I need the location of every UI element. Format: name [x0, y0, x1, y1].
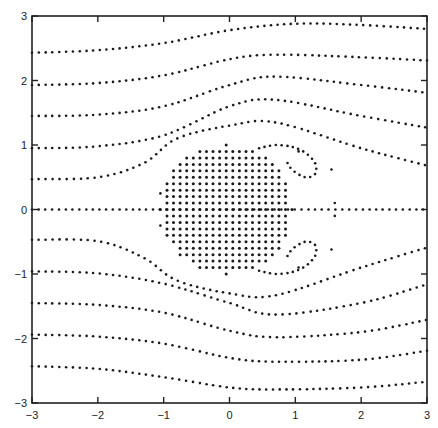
plot-frame: [32, 16, 427, 403]
streamline-chart: −3−2−10123 −3−2−10123: [0, 0, 438, 428]
y-tick-label: −1: [14, 268, 27, 280]
y-tick-label: 3: [21, 10, 27, 22]
streamline: [31, 75, 424, 117]
streamlines: [31, 22, 429, 391]
x-tick-label: 2: [358, 409, 364, 421]
upper-vortex: [258, 144, 333, 179]
streamline: [31, 22, 426, 54]
axes-frame: [32, 16, 427, 403]
x-tick-label: 3: [424, 409, 430, 421]
y-tick-label: −3: [14, 397, 27, 409]
x-tick-label: −3: [26, 409, 39, 421]
streamline: [31, 98, 427, 150]
lower-vortex: [258, 241, 333, 276]
y-tick-label: −2: [14, 333, 27, 345]
streamline: [31, 333, 429, 363]
streamline: [31, 238, 427, 298]
chart-canvas: −3−2−10123 −3−2−10123: [0, 0, 438, 428]
streamline: [31, 270, 425, 316]
streamline: [31, 53, 429, 86]
x-tick-label: 1: [292, 409, 298, 421]
y-tick-label: 1: [21, 139, 27, 151]
cylinder-dot-grid: [159, 144, 294, 276]
y-tick-label: 2: [21, 75, 27, 87]
y-tick-label: 0: [21, 204, 27, 216]
x-tick-label: −2: [92, 409, 105, 421]
streamline: [31, 365, 424, 391]
x-tick-label: 0: [226, 409, 232, 421]
streamline: [31, 302, 428, 339]
streamline: [31, 120, 427, 181]
x-tick-label: −1: [157, 409, 170, 421]
x-axis-ticks: −3−2−10123: [26, 16, 430, 421]
